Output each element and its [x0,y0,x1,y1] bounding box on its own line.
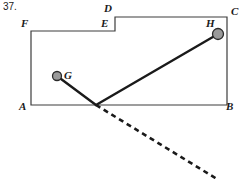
vertex-label-F: F [21,18,28,29]
dashed-ray-from-P [96,105,217,179]
geometry-figure: 37. A B C D E F G H [0,0,243,179]
shape-outline-path [31,17,227,105]
vertex-label-B: B [226,101,233,112]
point-label-G: G [64,70,72,81]
segment-G-to-vertex [57,76,96,105]
point-marker-G [53,72,62,81]
vertex-label-C: C [231,6,238,17]
segment-vertex-to-H [96,34,218,105]
point-label-H: H [206,18,215,29]
vertex-label-D: D [104,3,112,14]
point-marker-H [213,29,224,40]
vertex-label-A: A [19,101,26,112]
vertex-label-E: E [101,18,108,29]
